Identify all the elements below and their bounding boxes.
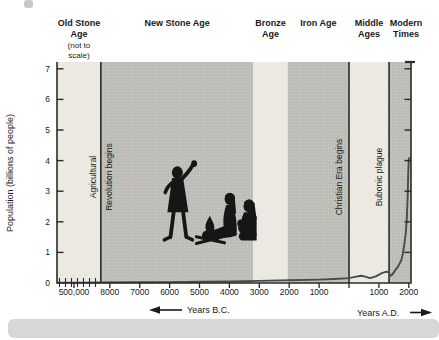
x-tick-label: 3000 (250, 287, 269, 297)
x-tick-label: 1000 (369, 287, 388, 297)
era-label-bronze-age: Bronze (255, 18, 286, 28)
x-tick-label: 7000 (130, 287, 149, 297)
x-tick-label: 6000 (160, 287, 179, 297)
x-tick-label: 1000 (310, 287, 329, 297)
era-label-middle-ages: Middle (355, 18, 384, 28)
x-tick-label: 2000 (399, 287, 418, 297)
label-christian-era: Christian Era begins (334, 139, 344, 216)
era-sublabel-old-stone-age: (not to (68, 41, 91, 50)
era-sublabel-old-stone-age: scale) (68, 51, 90, 60)
era-label-middle-ages: Ages (358, 29, 380, 39)
label-agricultural-revolution: Agricultural (88, 156, 98, 199)
y-tick-label: 4 (45, 156, 50, 166)
x-tick-label: 8000 (100, 287, 119, 297)
y-tick-label: 6 (45, 94, 50, 104)
left-arrowhead-icon (149, 306, 160, 314)
era-label-old-stone-age: Old Stone (58, 18, 101, 28)
years-ad-caption: Years A.D. (357, 308, 432, 318)
x-tick-label: 2000 (280, 287, 299, 297)
x-tick-label: 4000 (220, 287, 239, 297)
era-label-iron-age: Iron Age (300, 18, 336, 28)
era-label-old-stone-age: Age (70, 29, 87, 39)
years-bc-label: Years B.C. (187, 305, 230, 315)
era-label-modern-times: Modern (390, 18, 423, 28)
y-tick-label: 0 (45, 278, 50, 288)
label-agricultural-revolution: Revolution begins (104, 143, 114, 211)
page-edge (8, 319, 439, 338)
y-axis-title: Population (billions of people) (5, 114, 15, 232)
x-tick-label: 5000 (190, 287, 209, 297)
era-label-bronze-age: Age (262, 29, 279, 39)
y-tick-label: 3 (45, 186, 50, 196)
scan-smudge (24, 0, 33, 8)
band-bronze-age (253, 62, 287, 283)
era-label-modern-times: Times (393, 29, 419, 39)
population-growth-chart: AgriculturalRevolution beginsChristian E… (0, 0, 439, 340)
y-tick-label: 7 (45, 64, 50, 74)
era-label-new-stone-age: New Stone Age (144, 18, 209, 28)
label-bubonic-plague: Bubonic plague (374, 147, 384, 206)
era-labels: Old StoneAge(not toscale)New Stone AgeBr… (58, 18, 423, 60)
y-tick-label: 2 (45, 217, 50, 227)
y-tick-label: 5 (45, 125, 50, 135)
right-arrowhead-icon (421, 309, 432, 317)
y-tick-label: 1 (45, 247, 50, 257)
years-bc-caption: Years B.C. (149, 305, 230, 315)
years-ad-label: Years A.D. (357, 308, 399, 318)
x-tick-label: 500,000 (59, 287, 90, 297)
